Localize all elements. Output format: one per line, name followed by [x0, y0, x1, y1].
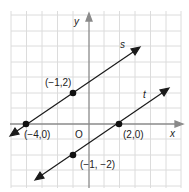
line-t-label: t	[143, 89, 147, 100]
y-axis-label: y	[73, 16, 80, 27]
origin-label: O	[75, 129, 83, 140]
line-s-label: s	[120, 39, 125, 50]
coordinate-plane: y x O s t (−1,2) (−4,0) (2,0) (−1, −2)	[0, 0, 189, 192]
point-neg4-0	[23, 121, 30, 128]
arrowhead-icon	[35, 172, 44, 180]
arrowhead-icon	[160, 88, 169, 96]
x-axis-label: x	[169, 128, 176, 139]
x-axis-arrow-icon	[175, 121, 183, 127]
y-axis-arrow-icon	[86, 13, 92, 21]
point-label-2-0: (2,0)	[123, 129, 144, 140]
point-label-neg4-0: (−4,0)	[24, 129, 50, 140]
arrowhead-icon	[131, 47, 140, 55]
point-label-neg1-2: (−1,2)	[45, 77, 71, 88]
point-neg1-neg2	[70, 152, 77, 159]
point-label-neg1-neg2: (−1, −2)	[80, 159, 115, 170]
point-neg1-2	[70, 90, 77, 97]
point-2-0	[116, 121, 123, 128]
